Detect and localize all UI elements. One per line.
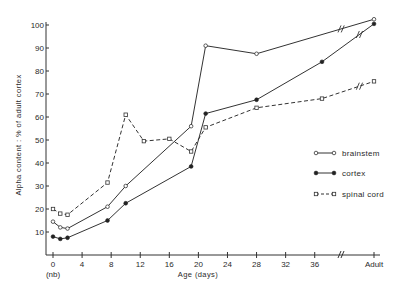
open-square-marker	[314, 192, 317, 195]
y-tick-label: 60	[35, 113, 44, 122]
filled-circle-marker	[106, 219, 110, 223]
open-circle-marker	[106, 205, 110, 209]
open-square-marker	[124, 113, 127, 116]
filled-circle-marker	[58, 237, 62, 241]
y-tick-label: 70	[35, 90, 44, 99]
open-circle-marker	[124, 184, 128, 188]
open-square-marker	[51, 207, 54, 210]
x-axis-title: Age (days)	[178, 270, 218, 279]
filled-circle-marker	[66, 236, 70, 240]
y-tick-label: 20	[35, 205, 44, 214]
x-tick-label: 20	[194, 260, 203, 269]
series-cortex	[51, 22, 376, 241]
legend-label: cortex	[342, 169, 366, 178]
newborn-label: (nb)	[46, 270, 61, 279]
legend-item-cortex: cortex	[314, 169, 365, 178]
open-circle-marker	[372, 17, 376, 21]
x-tick-label: 8	[109, 260, 114, 269]
axes	[46, 22, 380, 255]
legend-item-brainstem: brainstem	[314, 149, 380, 158]
y-tick-label: 100	[31, 21, 45, 30]
x-tick-label: 36	[310, 260, 319, 269]
open-circle-marker	[204, 44, 208, 48]
open-circle-marker	[58, 226, 62, 230]
open-square-marker	[204, 126, 207, 129]
x-tick-label: 16	[165, 260, 174, 269]
chart-container: 102030405060708090100 04812162024283236A…	[0, 0, 403, 291]
x-tick-label-adult: Adult	[365, 260, 384, 269]
filled-circle-marker	[189, 165, 193, 169]
open-square-marker	[66, 213, 69, 216]
x-tick-label: 12	[136, 260, 145, 269]
open-circle-marker	[255, 52, 259, 56]
open-square-marker	[59, 212, 62, 215]
open-circle-marker	[314, 151, 318, 155]
open-square-marker	[320, 97, 323, 100]
open-square-marker	[255, 106, 258, 109]
filled-circle-marker	[320, 60, 324, 64]
filled-circle-marker	[314, 171, 318, 175]
x-tick-label: 28	[252, 260, 261, 269]
filled-circle-marker	[51, 235, 55, 239]
filled-circle-marker	[204, 112, 208, 116]
open-circle-marker	[332, 151, 336, 155]
x-tick-label: 0	[51, 260, 56, 269]
data-series	[51, 17, 376, 240]
break-mark-icon	[356, 83, 359, 90]
y-tick-label: 50	[35, 136, 44, 145]
series-line	[53, 24, 374, 239]
legend-label: spinal cord	[342, 190, 384, 199]
break-mark-icon	[360, 83, 363, 90]
legend: brainstemcortexspinal cord	[314, 149, 384, 199]
y-tick-label: 30	[35, 182, 44, 191]
series-line	[53, 81, 374, 214]
open-square-marker	[106, 181, 109, 184]
y-axis-title: Alpha content : % of adult cortex	[14, 74, 23, 195]
filled-circle-marker	[332, 171, 336, 175]
filled-circle-marker	[372, 22, 376, 26]
filled-circle-marker	[124, 201, 128, 205]
filled-circle-marker	[255, 98, 259, 102]
open-circle-marker	[189, 124, 193, 128]
series-spinal-cord	[51, 80, 375, 217]
legend-label: brainstem	[342, 149, 380, 158]
y-tick-label: 10	[35, 228, 44, 237]
open-square-marker	[168, 137, 171, 140]
x-tick-label: 4	[80, 260, 85, 269]
open-square-marker	[189, 150, 192, 153]
open-square-marker	[142, 139, 145, 142]
y-tick-label: 80	[35, 67, 44, 76]
x-tick-label: 32	[281, 260, 290, 269]
y-tick-label: 40	[35, 159, 44, 168]
open-square-marker	[332, 192, 335, 195]
open-square-marker	[372, 80, 375, 83]
y-tick-label: 90	[35, 44, 44, 53]
x-tick-label: 24	[223, 260, 232, 269]
open-circle-marker	[66, 227, 70, 231]
line-chart: 102030405060708090100 04812162024283236A…	[0, 0, 403, 291]
open-circle-marker	[51, 220, 55, 224]
legend-item-spinal-cord: spinal cord	[314, 190, 384, 199]
